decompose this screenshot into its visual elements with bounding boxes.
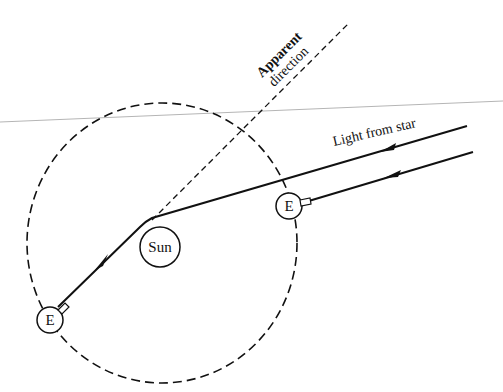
deflected-light-ray <box>58 126 467 307</box>
apparent-direction-label: Apparent direction <box>254 29 316 91</box>
arrow-icon <box>95 254 108 270</box>
apparent-direction-line <box>152 24 348 220</box>
telescope-icon <box>300 198 311 206</box>
earth-left-label: E <box>45 312 54 328</box>
sun-label: Sun <box>148 239 172 255</box>
deflection-diagram: Sun E E Apparent direction Light from st… <box>0 0 503 392</box>
earth-right-label: E <box>284 198 293 214</box>
guide-line <box>0 101 503 122</box>
